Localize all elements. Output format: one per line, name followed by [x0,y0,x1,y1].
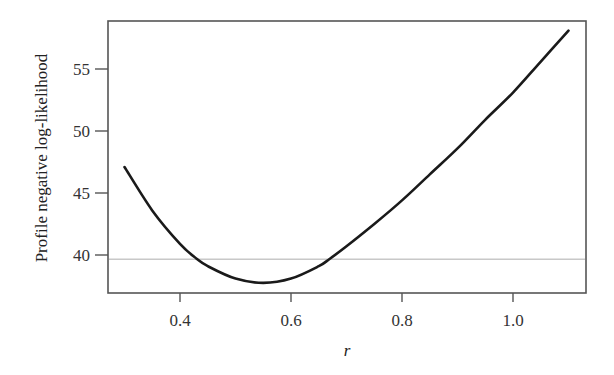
y-tick-label: 50 [73,122,90,141]
x-tick-label: 0.4 [169,311,191,330]
y-tick-label: 45 [73,184,90,203]
x-tick-label: 0.6 [280,311,301,330]
y-tick-label: 55 [73,60,90,79]
y-axis: 40455055 [73,60,108,265]
chart: 0.40.60.81.0 40455055 r Profile negative… [0,0,614,375]
y-tick-label: 40 [73,246,90,265]
plot-border [108,21,586,293]
x-tick-label: 0.8 [391,311,412,330]
x-axis-label: r [344,341,351,360]
x-tick-label: 1.0 [502,311,523,330]
y-axis-label: Profile negative log-likelihood [32,53,51,262]
data-series [125,31,569,283]
plot-frame [108,21,586,293]
series-line [125,31,569,283]
x-axis: 0.40.60.81.0 [169,293,523,330]
